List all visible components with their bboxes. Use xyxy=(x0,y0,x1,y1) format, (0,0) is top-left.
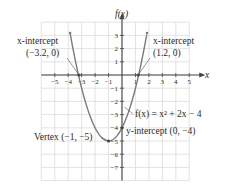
x-intercept-left-title: x-intercept xyxy=(17,36,59,46)
y-intercept-label: y-intercept (0, −4) xyxy=(126,126,195,137)
y-tick-label: −1 xyxy=(111,85,119,93)
x-tick-label: 5 xyxy=(188,78,192,86)
y-tick-label: 3 xyxy=(115,32,119,40)
y-tick-label: −3 xyxy=(111,111,119,119)
x-tick-label: 2 xyxy=(147,78,151,86)
equation-label: f(x) = x² + 2x − 4 xyxy=(135,109,202,120)
x-axis-label: x xyxy=(204,70,210,80)
y-tick-label: −7 xyxy=(111,164,119,172)
y-tick-label: −2 xyxy=(111,98,119,106)
x-intercept-left-value: (−3.2, 0) xyxy=(26,48,59,59)
y-tick-label: 1 xyxy=(115,58,119,66)
x-tick-label: 4 xyxy=(174,78,178,86)
y-tick-label: −6 xyxy=(111,151,119,159)
y-tick-label: 2 xyxy=(115,45,119,53)
x-tick-label: −5 xyxy=(51,78,59,86)
vertex-label: Vertex (−1, −5) xyxy=(34,132,92,143)
function-graph: −5−4−3−2−112345321−1−2−3−4−5−6−7 f(x) x … xyxy=(0,0,234,191)
x-tick-label: 3 xyxy=(161,78,165,86)
y-tick-label: −4 xyxy=(111,124,119,132)
x-intercept-right-value: (1.2, 0) xyxy=(153,48,181,59)
x-tick-label: −2 xyxy=(91,78,99,86)
x-intercept-right-title: x-intercept xyxy=(153,36,195,46)
y-axis-label: f(x) xyxy=(115,9,128,20)
x-tick-label: −4 xyxy=(64,78,72,86)
